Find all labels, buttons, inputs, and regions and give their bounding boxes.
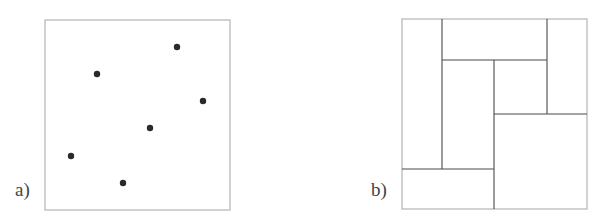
- point-6: [120, 180, 126, 186]
- point-3: [200, 98, 206, 104]
- point-2: [174, 44, 180, 50]
- point-4: [147, 125, 153, 131]
- panel-a-frame: [45, 20, 230, 210]
- diagram-canvas: [0, 0, 600, 219]
- point-5: [68, 153, 74, 159]
- panel-b-rectangle-partition: [402, 19, 587, 209]
- point-1: [94, 71, 100, 77]
- panel-a-label: a): [15, 180, 30, 199]
- panel-a-point-set: [45, 20, 230, 210]
- panel-a-points: [68, 44, 206, 186]
- panel-b-segments: [402, 19, 587, 209]
- panel-b-label: b): [371, 180, 387, 199]
